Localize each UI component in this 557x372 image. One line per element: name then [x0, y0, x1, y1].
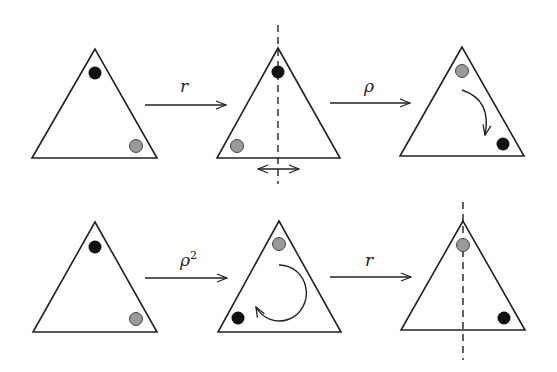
- label-rho-squared: ρ2: [180, 250, 197, 269]
- gray-dot: [130, 140, 143, 153]
- label-r-row1: r: [180, 78, 188, 95]
- black-dot: [232, 312, 245, 325]
- black-dot: [497, 138, 510, 151]
- row2-triangle3: [401, 202, 525, 360]
- gray-dot: [231, 140, 244, 153]
- gray-dot: [457, 239, 470, 252]
- gray-dot: [273, 238, 286, 251]
- row2-triangle2: [218, 221, 341, 332]
- gray-dot: [456, 65, 469, 78]
- gray-dot: [130, 313, 143, 326]
- black-dot: [89, 241, 102, 254]
- label-r-row2: r: [365, 252, 373, 269]
- black-dot: [272, 66, 285, 79]
- row1-triangle3: [400, 47, 524, 156]
- triangle-symmetry-diagram: [0, 0, 557, 372]
- row1-triangle1: [32, 49, 157, 158]
- row2-triangle1: [33, 222, 157, 332]
- label-rho-row1: ρ: [364, 78, 374, 95]
- black-dot: [89, 67, 102, 80]
- row1-triangle2: [217, 25, 340, 184]
- black-dot: [498, 312, 511, 325]
